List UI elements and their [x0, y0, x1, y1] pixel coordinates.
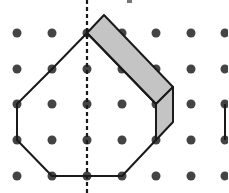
grid-dot — [13, 172, 22, 181]
grid-dot — [152, 29, 161, 38]
grid-dot — [48, 100, 57, 109]
grid-dot — [187, 100, 196, 109]
grid-dot — [13, 29, 22, 38]
grid-dot — [48, 29, 57, 38]
grid-dot — [118, 136, 127, 145]
geometry-figure — [0, 0, 228, 193]
shaded-strip-top-face — [87, 15, 173, 104]
small-marker — [127, 0, 132, 3]
grid-dot — [221, 65, 229, 74]
grid-dot — [48, 136, 57, 145]
grid-dot — [187, 65, 196, 74]
grid-dot — [187, 136, 196, 145]
grid-dot — [13, 65, 22, 74]
grid-dot — [221, 29, 229, 38]
grid-dot — [187, 172, 196, 181]
grid-dot — [152, 172, 161, 181]
grid-dot — [118, 100, 127, 109]
grid-dot — [187, 29, 196, 38]
grid-dot — [221, 172, 229, 181]
